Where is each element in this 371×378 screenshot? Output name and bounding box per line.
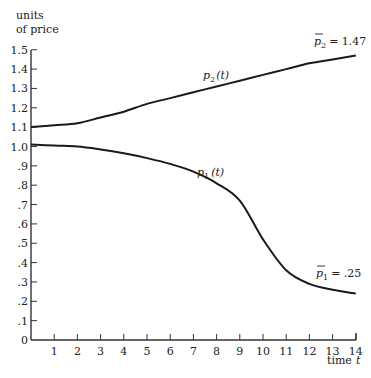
y-tick-label: 1.1 bbox=[11, 121, 29, 134]
x-tick-label: 11 bbox=[279, 345, 293, 358]
y-tick-label: 1.2 bbox=[11, 102, 29, 115]
p2-limit-annotation: p2= 1.47 bbox=[314, 34, 366, 50]
y-tick-label: 0 bbox=[21, 334, 28, 347]
x-tick-label: 10 bbox=[256, 345, 270, 358]
p1-curve-label: p1(t) bbox=[197, 166, 224, 181]
svg-text:p2= 1.47: p2= 1.47 bbox=[314, 35, 366, 50]
x-tick-label: 3 bbox=[97, 345, 104, 358]
p2-curve-label: p2(t) bbox=[203, 69, 229, 84]
x-ticks: 1234567891011121314 bbox=[51, 334, 363, 358]
y-tick-label: .5 bbox=[18, 237, 29, 250]
y-tick-label: 1.4 bbox=[11, 63, 29, 76]
x-tick-label: 2 bbox=[74, 345, 81, 358]
svg-text:p1= .25: p1= .25 bbox=[316, 267, 361, 282]
y-tick-label: .2 bbox=[18, 295, 29, 308]
p1-limit-annotation: p1= .25 bbox=[316, 266, 361, 282]
y-tick-label: .9 bbox=[18, 160, 29, 173]
x-tick-label: 4 bbox=[120, 345, 127, 358]
x-tick-label: 9 bbox=[236, 345, 243, 358]
x-tick-label: 7 bbox=[190, 345, 197, 358]
y-tick-label: 1.3 bbox=[11, 82, 29, 95]
x-tick-label: 6 bbox=[167, 345, 174, 358]
curve-p1 bbox=[31, 145, 356, 294]
y-tick-label: .1 bbox=[18, 315, 29, 328]
y-tick-label: .4 bbox=[18, 257, 29, 270]
line-chart: units of price 0.1.2.3.4.5.6.7.8.91.01.1… bbox=[0, 0, 371, 378]
y-axis-label-line2: of price bbox=[16, 23, 59, 36]
y-axis-label-line1: units bbox=[16, 9, 44, 22]
x-tick-label: 12 bbox=[302, 345, 316, 358]
x-tick-label: 5 bbox=[144, 345, 151, 358]
x-axis-label: timet bbox=[327, 354, 361, 367]
x-tick-label: 1 bbox=[51, 345, 58, 358]
x-tick-label: 8 bbox=[213, 345, 220, 358]
y-tick-label: .6 bbox=[18, 218, 29, 231]
y-ticks: 0.1.2.3.4.5.6.7.8.91.01.11.21.31.41.5 bbox=[11, 44, 38, 347]
y-tick-label: 1.5 bbox=[11, 44, 29, 57]
y-tick-label: .8 bbox=[18, 179, 29, 192]
y-tick-label: .3 bbox=[18, 276, 29, 289]
curve-p2 bbox=[31, 56, 356, 128]
y-tick-label: .7 bbox=[18, 199, 29, 212]
y-tick-label: 1.0 bbox=[11, 141, 29, 154]
